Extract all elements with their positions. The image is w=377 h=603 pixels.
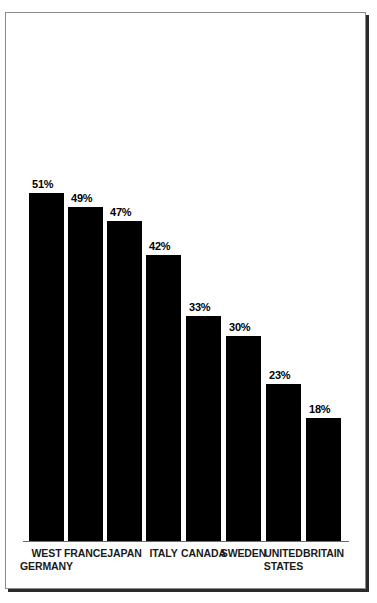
bar-value-7: 18% bbox=[309, 403, 330, 415]
bar-2 bbox=[107, 221, 142, 541]
bar-0 bbox=[29, 193, 64, 541]
chart-frame: 51% WEST GERMANY 49% FRANCE 47% JAPAN 42… bbox=[5, 12, 366, 589]
axis-baseline bbox=[23, 541, 349, 542]
bar-value-3: 42% bbox=[149, 240, 170, 252]
bar-value-6: 23% bbox=[269, 369, 290, 381]
bar-6 bbox=[266, 384, 301, 541]
bar-1 bbox=[68, 207, 103, 541]
bar-value-5: 30% bbox=[229, 321, 250, 333]
bar-3 bbox=[146, 255, 181, 541]
bar-value-0: 51% bbox=[32, 178, 53, 190]
bar-4 bbox=[186, 316, 221, 541]
bar-5 bbox=[226, 336, 261, 541]
bar-7 bbox=[306, 418, 341, 541]
bar-value-4: 33% bbox=[189, 301, 210, 313]
plot-area: 51% WEST GERMANY 49% FRANCE 47% JAPAN 42… bbox=[6, 13, 367, 590]
category-label-7: BRITAIN bbox=[294, 547, 353, 560]
bar-value-2: 47% bbox=[110, 206, 131, 218]
bar-value-1: 49% bbox=[71, 192, 92, 204]
